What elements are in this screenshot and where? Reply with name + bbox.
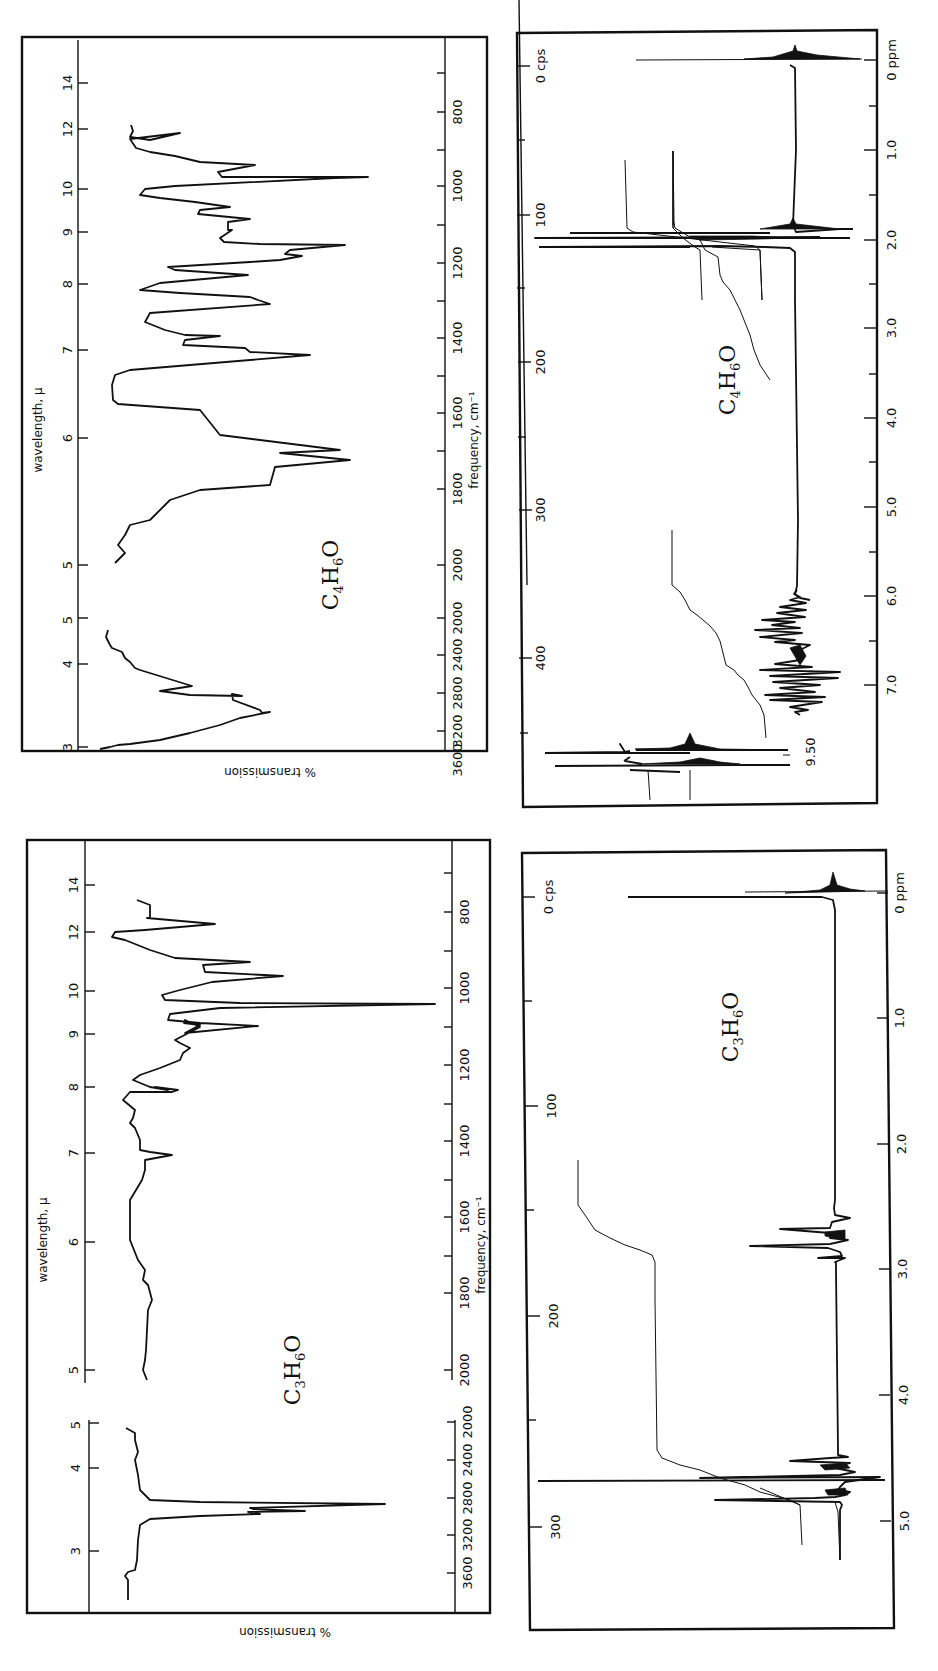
svg-text:2400: 2400 <box>460 1443 475 1476</box>
svg-text:5: 5 <box>68 1421 83 1429</box>
svg-text:2400: 2400 <box>450 638 465 671</box>
ir-panel-c3h6o: 14 12 10 9 8 7 6 5 5 4 3 wavelength, μ <box>27 840 490 1639</box>
svg-text:2000: 2000 <box>450 548 465 581</box>
svg-text:3: 3 <box>68 1547 83 1555</box>
svg-text:2800: 2800 <box>460 1481 475 1514</box>
svg-text:2000: 2000 <box>457 1353 472 1386</box>
cps-tick-labels: 0 cps 100 200 300 400 <box>533 48 548 670</box>
svg-text:0 ppm: 0 ppm <box>892 872 907 914</box>
svg-text:5.0: 5.0 <box>897 1511 912 1532</box>
svg-text:4.0: 4.0 <box>896 1385 911 1406</box>
svg-text:frequency, cm⁻¹: frequency, cm⁻¹ <box>467 391 481 488</box>
svg-text:3.0: 3.0 <box>895 1259 910 1280</box>
nmr-peak-tms <box>744 45 860 59</box>
svg-text:200: 200 <box>546 1304 561 1329</box>
ir-trace-c4h6o-fingerprint <box>112 125 368 563</box>
svg-text:3600: 3600 <box>460 1556 475 1589</box>
svg-text:5.0: 5.0 <box>884 497 899 518</box>
svg-text:4: 4 <box>60 660 75 668</box>
ir-frame <box>27 840 490 1613</box>
svg-text:8: 8 <box>66 1083 81 1091</box>
nmr-panel-c3h6o: 0 cps 100 200 300 0 ppm 1.0 2.0 3.0 4.0 … <box>522 850 912 1630</box>
svg-text:100: 100 <box>533 203 548 228</box>
wavelength-tick-labels: 14 12 10 9 8 7 6 5 5 4 3 wavelength, μ <box>36 877 83 1555</box>
svg-text:1.0: 1.0 <box>884 140 899 161</box>
svg-text:C4H6O: C4H6O <box>715 345 743 416</box>
svg-text:1600: 1600 <box>457 1200 472 1233</box>
ir-panel-c4h6o: 14 12 10 9 8 7 6 5 5 4 3 wavelength, μ <box>22 37 487 779</box>
formula-label: C4H6O <box>318 540 346 611</box>
svg-text:0 ppm: 0 ppm <box>884 39 899 81</box>
svg-text:8: 8 <box>60 280 75 288</box>
svg-text:2800: 2800 <box>450 676 465 709</box>
svg-text:7: 7 <box>60 346 75 354</box>
svg-text:1200: 1200 <box>457 1048 472 1081</box>
formula-label: C3H6O <box>718 992 746 1063</box>
svg-text:3600: 3600 <box>450 743 465 776</box>
svg-text:10: 10 <box>60 181 75 198</box>
svg-text:2.0: 2.0 <box>894 1134 909 1155</box>
nmr-aldehyde-peaks <box>635 733 785 750</box>
svg-text:14: 14 <box>60 75 75 92</box>
svg-text:800: 800 <box>457 900 472 925</box>
svg-text:C4H6O: C4H6O <box>318 540 346 611</box>
nmr-panel-c4h6o: 0 cps 100 200 300 400 0 ppm <box>517 0 899 807</box>
svg-text:1000: 1000 <box>450 169 465 202</box>
svg-text:6: 6 <box>66 1238 81 1246</box>
svg-text:0 cps: 0 cps <box>541 879 556 914</box>
svg-text:7: 7 <box>66 1149 81 1157</box>
svg-text:1800: 1800 <box>457 1276 472 1309</box>
ir-trace-c3h6o-ch-region <box>125 1428 385 1600</box>
nmr-integral-c3h6o <box>578 1160 802 1545</box>
svg-text:1400: 1400 <box>450 321 465 354</box>
svg-text:3: 3 <box>60 743 75 751</box>
ir-frame <box>22 37 487 751</box>
svg-text:C3H6O: C3H6O <box>280 1335 308 1406</box>
ppm-tick-labels: 0 ppm 1.0 2.0 3.0 4.0 5.0 <box>892 872 912 1531</box>
svg-text:2000: 2000 <box>450 601 465 634</box>
svg-text:4: 4 <box>68 1464 83 1472</box>
cps-tick-labels: 0 cps 100 200 300 <box>541 879 563 1539</box>
nmr-multiplet-7ppm <box>760 660 840 715</box>
ir-trace-c4h6o-ch-region <box>100 630 270 749</box>
svg-text:6: 6 <box>60 434 75 442</box>
svg-text:1.0: 1.0 <box>892 1008 907 1029</box>
svg-text:1200: 1200 <box>450 246 465 279</box>
svg-text:1400: 1400 <box>457 1124 472 1157</box>
svg-text:wavelength, μ: wavelength, μ <box>31 387 45 473</box>
svg-text:6.0: 6.0 <box>884 586 899 607</box>
svg-text:5: 5 <box>60 616 75 624</box>
svg-text:0 cps: 0 cps <box>533 48 548 83</box>
svg-text:100: 100 <box>544 1094 559 1119</box>
svg-text:400: 400 <box>533 646 548 671</box>
svg-text:3200: 3200 <box>450 714 465 747</box>
wavelength-tick-labels: 14 12 10 9 8 7 6 5 5 4 3 wavelength, μ <box>31 75 75 751</box>
svg-text:9: 9 <box>66 1030 81 1038</box>
svg-text:frequency, cm⁻¹: frequency, cm⁻¹ <box>474 1196 488 1293</box>
svg-text:12: 12 <box>66 924 81 941</box>
ir-trace-c3h6o-fingerprint <box>112 900 435 1380</box>
svg-text:3200: 3200 <box>460 1518 475 1551</box>
svg-text:4.0: 4.0 <box>884 408 899 429</box>
ir-ylabel: % transmission <box>224 765 316 779</box>
nmr-integral-c4h6o <box>625 151 762 300</box>
svg-text:7.0: 7.0 <box>884 675 899 696</box>
svg-text:12: 12 <box>60 121 75 138</box>
formula-label: C3H6O <box>280 1335 308 1406</box>
svg-text:300: 300 <box>548 1515 563 1540</box>
svg-text:wavelength, μ: wavelength, μ <box>36 1197 50 1283</box>
frequency-tick-labels: 800 1000 1200 1400 1600 1800 2000 2000 2… <box>457 900 488 1590</box>
spectra-page: 14 12 10 9 8 7 6 5 5 4 3 wavelength, μ <box>0 0 938 1671</box>
svg-text:5: 5 <box>66 1366 81 1374</box>
nmr-peak-tms <box>785 872 865 893</box>
svg-text:1000: 1000 <box>457 971 472 1004</box>
svg-text:C3H6O: C3H6O <box>718 992 746 1063</box>
svg-text:800: 800 <box>450 100 465 125</box>
offset-annotation: 9.50 <box>803 738 818 767</box>
ppm-tick-labels: 0 ppm 1.0 2.0 3.0 4.0 5.0 6.0 7.0 <box>884 39 899 695</box>
svg-text:2.0: 2.0 <box>884 230 899 251</box>
formula-label: C4H6O <box>715 345 743 416</box>
svg-text:3.0: 3.0 <box>884 318 899 339</box>
svg-text:14: 14 <box>66 877 81 894</box>
svg-text:2000: 2000 <box>460 1405 475 1438</box>
